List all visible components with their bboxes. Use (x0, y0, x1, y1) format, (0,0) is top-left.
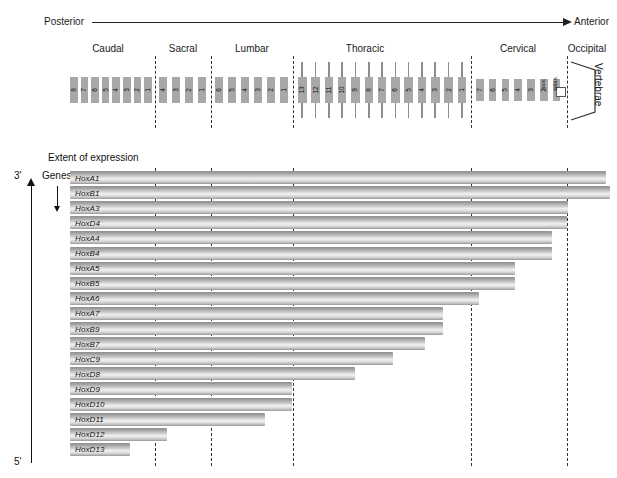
gene-bar-label: HoxD8 (75, 369, 100, 378)
five-prime-label: 5' (14, 456, 21, 467)
hox-expression-figure: Posterior Anterior Caudal Sacral Lumbar … (0, 0, 617, 478)
region-header-thoracic: Thoracic (330, 43, 400, 54)
gene-bar-hoxa6: HoxA6 (70, 292, 479, 305)
up-arrow-icon (27, 178, 35, 186)
vertebra-thoracic-1: 1 (458, 77, 467, 103)
vertebra-number-label: 5 (405, 88, 412, 92)
vertebra-thoracic-6: 6 (391, 77, 400, 103)
gene-bar-label: HoxB9 (75, 324, 100, 333)
gene-bar-label: HoxD10 (75, 400, 105, 409)
gene-bar-hoxd10: HoxD10 (70, 398, 292, 411)
vertebra-thoracic-11: 11 (325, 77, 334, 103)
vertebra-number-label: 13 (299, 86, 306, 93)
vertebrae-bracket-label: Vertebrae (593, 63, 604, 106)
vertebra-number-label: 2 (445, 88, 452, 92)
vertebra-number-label: 10 (339, 86, 346, 93)
vertebra-cervical-6: 6 (489, 79, 497, 101)
gene-bar-hoxd9: HoxD9 (70, 382, 292, 395)
gene-bar-label: HoxA1 (75, 173, 100, 182)
vertebra-number-label: 7 (477, 88, 484, 92)
gene-bar-label: HoxB7 (75, 339, 100, 348)
vertebra-number-label: 3 (124, 88, 131, 92)
vertebra-cervical-7: 7 (476, 79, 484, 101)
divider-caudal-sacral (155, 56, 156, 128)
vertebra-caudal-5: 5 (102, 77, 110, 103)
vertebra-number-label: 11 (326, 87, 333, 94)
vertebra-number-label: 1 (145, 88, 152, 92)
vertebra-number-label: 6 (216, 88, 223, 92)
vertebra-sacral-1: 1 (198, 77, 206, 103)
vertebra-caudal-8: 8 (70, 77, 78, 103)
vertebra-number-label: 4 (515, 88, 522, 92)
vertebra-number-label: 12 (312, 86, 319, 93)
vertebra-thoracic-9: 9 (351, 77, 360, 103)
vertebra-caudal-6: 6 (91, 77, 99, 103)
vertebra-number-label: 1 (199, 88, 206, 92)
vertebra-number-label: 7 (379, 88, 386, 92)
gene-bar-hoxa3: HoxA3 (70, 201, 568, 214)
vertebra-number-label: 2 (186, 88, 193, 92)
three-prime-label: 3' (14, 170, 21, 181)
gene-bar-hoxd12: HoxD12 (70, 428, 167, 441)
vertebra-cervical-5: 5 (502, 79, 510, 101)
region-header-sacral: Sacral (155, 43, 211, 54)
vertebra-thoracic-13: 13 (298, 77, 307, 103)
extent-of-expression-title: Extent of expression (48, 152, 139, 163)
gene-bar-hoxb4: HoxB4 (70, 247, 552, 260)
gene-bar-label: HoxB5 (75, 279, 100, 288)
gene-bar-hoxb7: HoxB7 (70, 337, 425, 350)
vertebra-thoracic-8: 8 (365, 77, 374, 103)
gene-bar-hoxd4: HoxD4 (70, 216, 567, 229)
gene-bar-label: HoxA7 (75, 309, 100, 318)
gene-bar-label: HoxA5 (75, 264, 100, 273)
vertebra-sacral-4: 4 (159, 77, 167, 103)
divider-cervical-occipital (567, 56, 568, 128)
gene-bar-label: HoxD12 (75, 430, 105, 439)
axis-vertebra-label: axis (540, 79, 546, 90)
gene-bar-hoxa1: HoxA1 (70, 171, 606, 184)
vertebra-thoracic-2: 2 (444, 77, 453, 103)
down-arrow-icon (54, 206, 60, 212)
posterior-anterior-axis-line (92, 22, 564, 23)
vertebra-thoracic-4: 4 (418, 77, 427, 103)
divider-thoracic-cervical (471, 56, 472, 128)
gene-bar-hoxd8: HoxD8 (70, 367, 355, 380)
vertebra-number-label: 2 (134, 88, 141, 92)
gene-bar-label: HoxA3 (75, 203, 100, 212)
vertebra-cervical-3: 3 (527, 79, 535, 101)
vertebra-number-label: 3 (255, 88, 262, 92)
right-arrow-icon (563, 18, 572, 26)
vertebra-thoracic-3: 3 (431, 77, 440, 103)
vertebra-number-label: 3 (528, 88, 535, 92)
vertebra-number-label: 4 (242, 88, 249, 92)
gene-bar-hoxd13: HoxD13 (70, 443, 130, 456)
vertebra-caudal-7: 7 (81, 77, 89, 103)
gene-bar-hoxa4: HoxA4 (70, 231, 552, 244)
gene-bar-label: HoxD13 (75, 445, 105, 454)
divider-sacral-lumbar (211, 56, 212, 128)
vertebra-lumbar-4: 4 (241, 77, 249, 103)
vertebra-number-label: 9 (352, 88, 359, 92)
vertebra-thoracic-12: 12 (311, 77, 320, 103)
vertebra-number-label: 6 (489, 88, 496, 92)
vertebra-number-label: 5 (229, 88, 236, 92)
vertebra-number-label: 5 (102, 88, 109, 92)
vertebra-number-label: 3 (432, 88, 439, 92)
vertebra-number-label: 1 (281, 88, 288, 92)
vertebra-number-label: 4 (160, 88, 167, 92)
vertebra-lumbar-1: 1 (280, 77, 288, 103)
gene-bar-hoxb1: HoxB1 (70, 186, 610, 199)
gene-bar-label: HoxA4 (75, 233, 100, 242)
vertebra-number-label: 8 (71, 88, 78, 92)
axis-label-anterior: Anterior (574, 16, 609, 27)
gene-direction-arrow-line (57, 186, 58, 208)
gene-bar-label: HoxA6 (75, 294, 100, 303)
vertebra-cervical-4: 4 (514, 79, 522, 101)
divider-lumbar-thoracic (293, 56, 294, 128)
vertebra-sacral-2: 2 (185, 77, 193, 103)
gene-bar-label: HoxC9 (75, 354, 100, 363)
gene-bar-label: HoxD4 (75, 218, 100, 227)
vertebra-number-label: 2 (268, 88, 275, 92)
vertebra-caudal-1: 1 (144, 77, 152, 103)
gene-order-axis-line (31, 186, 32, 463)
